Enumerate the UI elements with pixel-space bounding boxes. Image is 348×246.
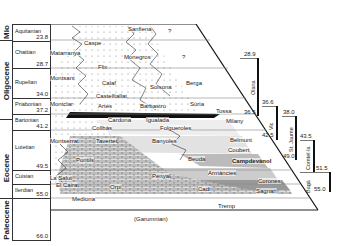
formation-label: Solsona <box>150 84 172 90</box>
sequence-top-line <box>262 106 276 107</box>
formation-label: Monegros <box>124 54 151 60</box>
sequence-name: Bagà <box>305 180 311 193</box>
sequence-top-age: 38.0 <box>283 109 295 115</box>
formation-label: Sanfiena <box>128 26 152 32</box>
formation-label: Milany <box>226 118 243 124</box>
sequence-top-age: 51.5 <box>316 165 328 171</box>
formation-label: Matarranya <box>50 50 80 56</box>
formation-label: Montserrat <box>50 138 79 144</box>
sequence-top-line <box>300 172 330 173</box>
formation-label: Berga <box>186 80 202 86</box>
formation-label: Collbàs <box>92 125 112 131</box>
sequence-top-line <box>240 58 258 59</box>
formation-label: Armàncies <box>208 170 236 176</box>
formation-label: Igualada <box>146 117 169 123</box>
stage-priabonian: Priabonian37.2 <box>12 98 51 115</box>
formation-label: Penyal <box>152 173 170 179</box>
sequence-bottom-age: 55.0 <box>314 186 326 192</box>
formation-label: Castelltallat <box>96 93 127 99</box>
formation-label: Orpí <box>110 184 122 190</box>
sequence-top-line <box>282 116 296 117</box>
sequence-bottom-age: 42.5 <box>262 132 274 138</box>
formation-label: Barbastro <box>140 103 166 109</box>
sequence-bottom-age: 49.0 <box>283 153 295 159</box>
sequence-top-age: 43.5 <box>300 133 312 139</box>
sequence-name: St. Jaume <box>288 127 294 152</box>
stage-lutetian: Lutetian49.5 <box>12 130 51 171</box>
sequence-top-age: 28.9 <box>244 51 256 57</box>
formation-label: ? <box>168 28 171 34</box>
formation-label: Cadí <box>198 186 211 192</box>
formation-label: Tremp <box>218 203 235 209</box>
formation-label: Caspe <box>84 40 101 46</box>
stage-bartonian: Bartonian41.2 <box>12 114 51 131</box>
sequence-bar <box>295 116 297 160</box>
formation-label: Flix <box>98 64 107 70</box>
sequence-name: Vic <box>268 122 274 130</box>
formation-label: Coubert <box>228 147 249 153</box>
formation-label: Mediona <box>72 196 95 202</box>
sequence-bar <box>329 172 331 192</box>
sequence-bar <box>313 140 315 172</box>
formation-label: Belmunt <box>230 137 252 143</box>
sequence-top-age: 36.6 <box>262 99 274 105</box>
stage-rupelian: Rupelian34.0 <box>12 68 51 99</box>
formation-label: Calaf <box>102 80 116 86</box>
formation-label: Cardona <box>108 117 131 123</box>
formation-label: Campdevànol <box>232 158 271 164</box>
formation-label: Artés <box>98 103 112 109</box>
formation-label: Folgueroles <box>160 125 191 131</box>
formation-label: Pontils <box>76 157 94 163</box>
sequence-bar <box>257 58 259 116</box>
stage-chattian: Chattian28.7 <box>12 40 51 69</box>
stage-cuisian: Cuisian <box>12 170 51 185</box>
formation-label: ? <box>182 54 185 60</box>
formation-label: Tossa <box>216 108 232 114</box>
formation-label: La Salut <box>50 175 72 181</box>
formation-label: Banyoles <box>152 138 177 144</box>
formation-label: Súria <box>190 101 204 107</box>
sequence-bottom-age: 36.5 <box>244 109 256 115</box>
formation-label: Corones <box>258 178 281 184</box>
formation-label: Montclar <box>50 101 73 107</box>
stage-ilerdian: Ilerdian55.0 <box>12 184 51 199</box>
formation-label: Tavertet <box>96 138 117 144</box>
formation-label: Montsant <box>50 75 75 81</box>
formation-label: Sagnari <box>256 188 277 194</box>
sequence-bar <box>276 106 278 140</box>
formation-label: (Garumnian) <box>134 216 168 222</box>
stage-paleocene-base: 66.0 <box>12 198 51 241</box>
formation-label: Beuda <box>188 156 205 162</box>
sequence-name: Comtel·la <box>305 146 311 170</box>
formation-label: El Cairat <box>56 182 79 188</box>
sequence-top-line <box>300 140 314 141</box>
sequence-name: Olana <box>250 80 256 95</box>
